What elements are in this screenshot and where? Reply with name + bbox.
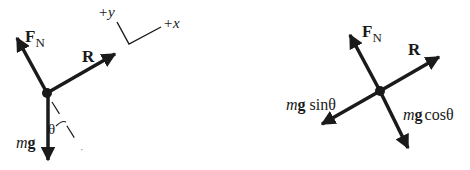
weight-perpendicular-label: mgcosθ (403, 106, 454, 124)
theta-label: θ (48, 121, 55, 137)
object-point (375, 86, 385, 96)
resistance-label: R (408, 40, 421, 59)
left-free-body-diagram: FN R mg θ +y +x (16, 4, 180, 160)
object-point (42, 88, 52, 98)
y-axis-label: +y (98, 4, 115, 20)
resistance-label: R (82, 47, 95, 66)
free-body-diagrams: FN R mg θ +y +x FN R mgsinθ mgcosθ (0, 0, 470, 170)
resistance-force-arrow (47, 54, 115, 93)
x-axis-label: +x (163, 15, 180, 31)
angle-arc (56, 122, 66, 127)
normal-force-label: FN (362, 22, 382, 45)
right-free-body-diagram: FN R mgsinθ mgcosθ (286, 22, 454, 148)
resistance-force-arrow (380, 57, 439, 91)
weight-label: mg (16, 134, 36, 152)
coordinate-axes: +y +x (98, 4, 180, 44)
normal-force-label: FN (25, 27, 45, 50)
weight-parallel-label: mgsinθ (286, 96, 336, 114)
